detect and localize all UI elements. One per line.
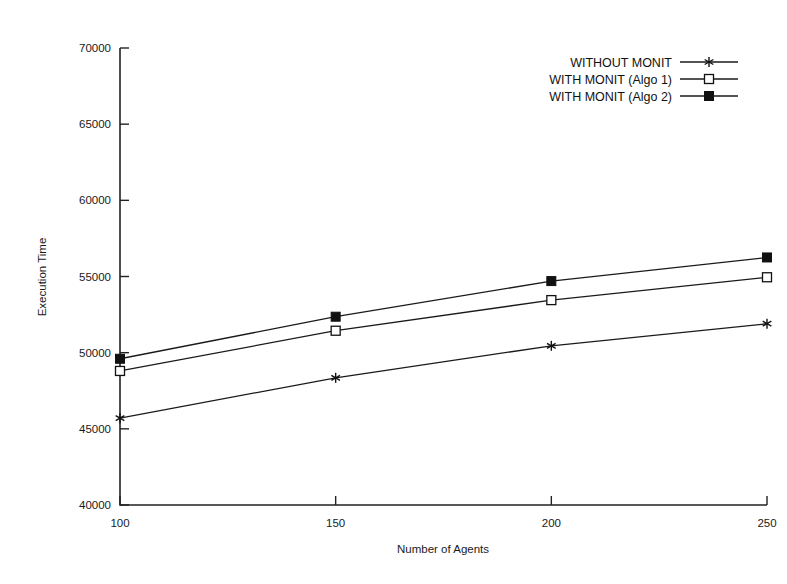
x-tick-label: 200 (542, 517, 561, 529)
x-tick-label: 250 (757, 517, 776, 529)
chart-figure: 40000450005000055000600006500070000 1001… (0, 0, 787, 584)
legend-item[interactable]: WITHOUT MONIT (570, 56, 738, 70)
y-tick-label: 45000 (79, 423, 111, 435)
data-point-marker (331, 312, 340, 321)
data-point-marker (763, 253, 772, 262)
y-tick-label: 50000 (79, 347, 111, 359)
y-axis-title: Execution Time (36, 238, 48, 317)
data-point-marker (116, 366, 125, 375)
legend-item[interactable]: WITH MONIT (Algo 1) (549, 73, 738, 87)
x-axis-ticks: 100150200250 (110, 496, 776, 529)
x-tick-label: 150 (326, 517, 345, 529)
y-tick-label: 40000 (79, 499, 111, 511)
legend-marker (705, 92, 714, 101)
data-point-marker (116, 354, 125, 363)
x-axis-title: Number of Agents (397, 543, 489, 555)
axis-frame (120, 48, 767, 505)
legend-label: WITH MONIT (Algo 2) (549, 90, 672, 104)
legend-label: WITHOUT MONIT (570, 56, 672, 70)
legend-label: WITH MONIT (Algo 1) (549, 73, 672, 87)
series-filled-square (116, 253, 772, 363)
series-star (116, 319, 772, 423)
y-tick-label: 60000 (79, 194, 111, 206)
chart-legend: WITHOUT MONITWITH MONIT (Algo 1)WITH MON… (549, 56, 738, 104)
data-point-marker (331, 326, 340, 335)
y-tick-label: 70000 (79, 42, 111, 54)
data-point-marker (547, 296, 556, 305)
chart-canvas: 40000450005000055000600006500070000 1001… (0, 0, 787, 584)
x-tick-label: 100 (110, 517, 129, 529)
y-tick-label: 55000 (79, 271, 111, 283)
data-point-marker (763, 273, 772, 282)
series-open-square (116, 273, 772, 376)
data-point-marker (547, 277, 556, 286)
legend-item[interactable]: WITH MONIT (Algo 2) (549, 90, 738, 104)
y-axis-ticks: 40000450005000055000600006500070000 (79, 42, 129, 511)
y-tick-label: 65000 (79, 118, 111, 130)
legend-marker (705, 75, 714, 84)
data-series-group (116, 253, 772, 423)
